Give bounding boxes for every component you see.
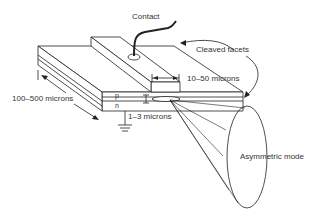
- active-thickness-label: 1–3 microns: [128, 113, 172, 121]
- length-dim-lower: [74, 104, 96, 118]
- n-layer-label: n: [115, 102, 119, 109]
- emission-beam: [170, 100, 245, 203]
- diagram-drawing: [0, 0, 313, 214]
- contact-stripe-front: [151, 82, 180, 92]
- stripe-width-label: 10–50 microns: [187, 75, 239, 83]
- laser-diode-diagram: Contact Cleaved facets 10–50 microns 100…: [0, 0, 313, 214]
- asymmetric-mode-label: Asymmetric mode: [240, 153, 304, 161]
- cleaved-facets-label: Cleaved facets: [196, 46, 249, 54]
- contact-label: Contact: [132, 13, 160, 21]
- p-layer-label: p: [115, 92, 119, 99]
- length-label: 100–500 microns: [12, 95, 73, 103]
- cleaved-facet-arrow-right: [246, 56, 258, 96]
